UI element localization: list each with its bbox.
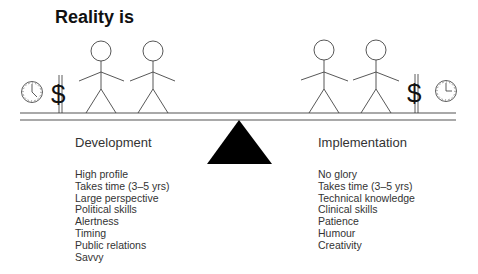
list-item: Takes time (3–5 yrs) [318, 181, 415, 193]
clock-icon [436, 81, 457, 102]
development-column: Development High profile Takes time (3–5… [75, 135, 170, 263]
stick-figure [301, 40, 348, 113]
list-item: Creativity [318, 240, 415, 252]
implementation-column: Implementation No glory Takes time (3–5 … [318, 135, 415, 252]
implementation-list: No glory Takes time (3–5 yrs) Technical … [318, 169, 415, 252]
svg-text:$: $ [407, 78, 422, 108]
list-item: Public relations [75, 240, 170, 252]
dollar-icon: $ [51, 75, 66, 113]
list-item: Savvy [75, 252, 170, 264]
stick-figure [353, 40, 399, 113]
development-heading: Development [75, 135, 170, 150]
implementation-heading: Implementation [318, 135, 415, 150]
list-item: Humour [318, 228, 415, 240]
clock-icon [22, 82, 43, 103]
seesaw-beam [20, 113, 456, 120]
fulcrum-triangle [207, 120, 272, 164]
list-item: Takes time (3–5 yrs) [75, 181, 170, 193]
stick-figure [79, 41, 124, 113]
svg-text:$: $ [51, 79, 66, 109]
list-item: Timing [75, 228, 170, 240]
development-list: High profile Takes time (3–5 yrs) Large … [75, 169, 170, 263]
dollar-icon: $ [407, 74, 422, 113]
stick-figure [130, 41, 175, 113]
